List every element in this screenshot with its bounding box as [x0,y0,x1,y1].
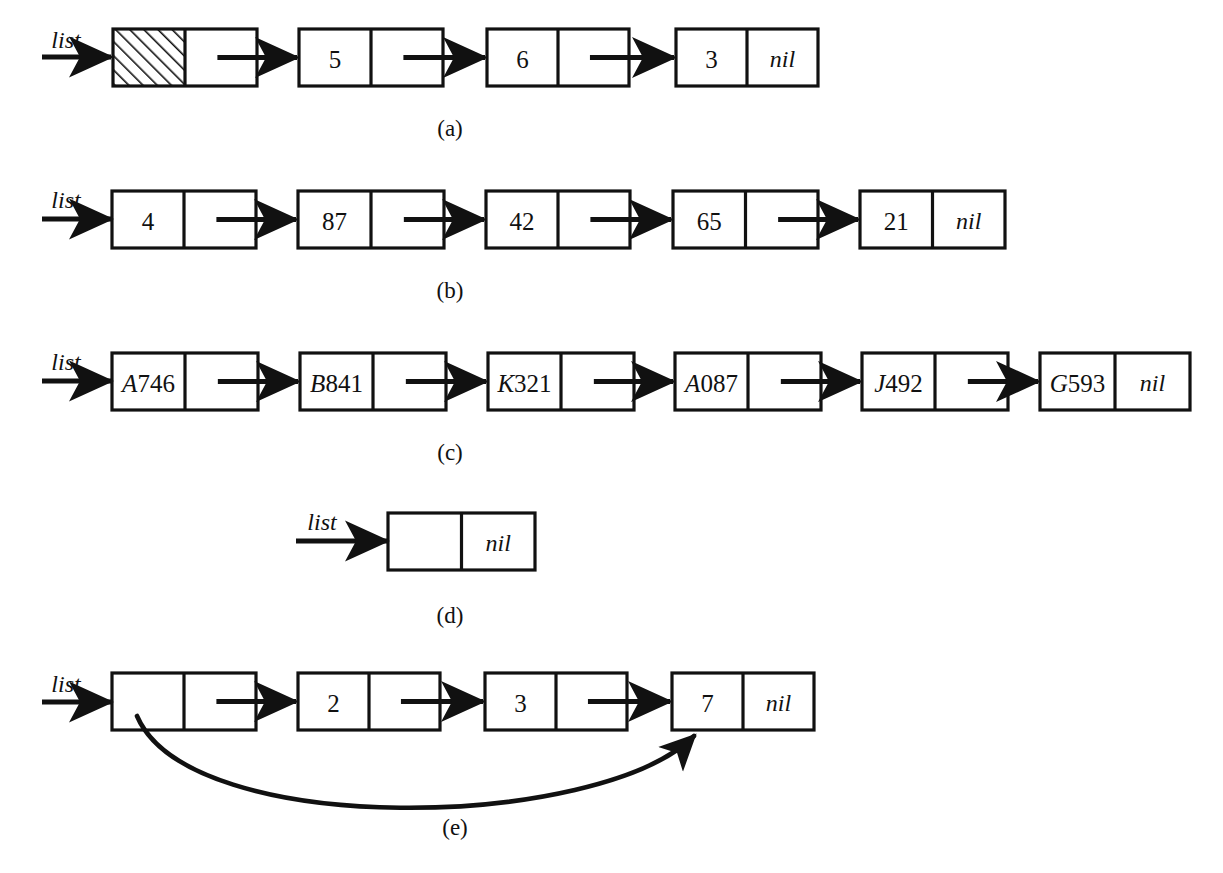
list-pointer-label: list [51,188,80,212]
node-value: 65 [697,208,722,233]
node-value: B841 [310,370,363,395]
row-caption: (b) [437,279,464,302]
node-value: 87 [322,208,347,233]
row-caption: (d) [437,604,464,627]
node-value: G593 [1050,370,1106,395]
row-caption: (e) [442,816,468,839]
node-value: 7 [701,690,714,715]
nil-label: nil [1140,371,1165,395]
node-value: A746 [122,370,175,395]
nil-label: nil [766,691,791,715]
nil-label: nil [486,531,511,555]
row-caption: (c) [437,441,463,464]
list-pointer-label: list [51,350,80,374]
node-value: K321 [497,370,551,395]
node-value: 5 [329,46,342,71]
diagram-text-layer: list563nil(a)list487426521nil(b)listA746… [0,0,1223,873]
node-value: 42 [510,208,535,233]
node-value: 21 [884,208,909,233]
node-value: 4 [142,208,155,233]
list-pointer-label: list [51,672,80,696]
node-value: J492 [874,370,923,395]
node-value: 3 [705,46,718,71]
row-caption: (a) [437,117,463,140]
list-pointer-label: list [51,28,80,52]
node-value: 3 [514,690,527,715]
nil-label: nil [770,47,795,71]
linked-list-figure: list563nil(a)list487426521nil(b)listA746… [0,0,1223,873]
list-pointer-label: list [307,510,336,534]
node-value: 6 [516,46,529,71]
node-value: A087 [685,370,738,395]
node-value: 2 [327,690,340,715]
nil-label: nil [956,209,981,233]
